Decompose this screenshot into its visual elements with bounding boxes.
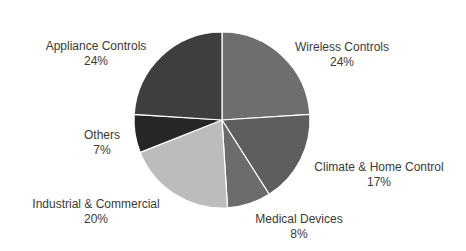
label-others-pct: 7% bbox=[93, 143, 111, 157]
pie-slices bbox=[134, 32, 310, 208]
label-others: Others bbox=[84, 128, 120, 142]
label-appliance-controls-pct: 24% bbox=[84, 54, 108, 68]
label-medical-devices: Medical Devices bbox=[255, 212, 342, 226]
label-wireless-controls: Wireless Controls bbox=[295, 40, 389, 54]
label-climate-home-control: Climate & Home Control bbox=[314, 160, 443, 174]
label-industrial-commercial-pct: 20% bbox=[84, 212, 108, 226]
pie-slice-appliance-controls bbox=[134, 32, 222, 120]
label-medical-devices-pct: 8% bbox=[290, 227, 308, 241]
label-climate-home-control-pct: 17% bbox=[367, 175, 391, 189]
pie-chart: Wireless Controls 24% Climate & Home Con… bbox=[0, 0, 466, 251]
label-industrial-commercial: Industrial & Commercial bbox=[32, 197, 159, 211]
label-wireless-controls-pct: 24% bbox=[330, 55, 354, 69]
label-appliance-controls: Appliance Controls bbox=[46, 39, 147, 53]
